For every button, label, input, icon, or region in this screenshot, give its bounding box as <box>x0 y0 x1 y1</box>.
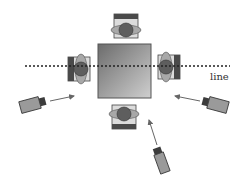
camera-body-icon <box>207 97 229 114</box>
head-icon <box>117 107 131 121</box>
arrow-right <box>175 96 200 101</box>
camera-body-icon <box>19 97 41 114</box>
camera-bottom-right <box>152 146 170 174</box>
head-icon <box>119 23 133 37</box>
person-right <box>158 52 180 82</box>
head-icon <box>159 60 173 74</box>
head-icon <box>74 62 88 76</box>
arrow-left <box>50 96 74 101</box>
line-label: line <box>210 71 229 82</box>
person-left <box>68 54 90 84</box>
camera-left <box>19 95 47 113</box>
person-top <box>111 14 141 38</box>
camera-right <box>201 95 229 113</box>
arrow-bottom-right <box>149 120 157 145</box>
person-bottom <box>109 105 139 129</box>
camera-body-icon <box>154 152 170 174</box>
seating-diagram: line <box>0 0 248 181</box>
table <box>98 44 151 98</box>
